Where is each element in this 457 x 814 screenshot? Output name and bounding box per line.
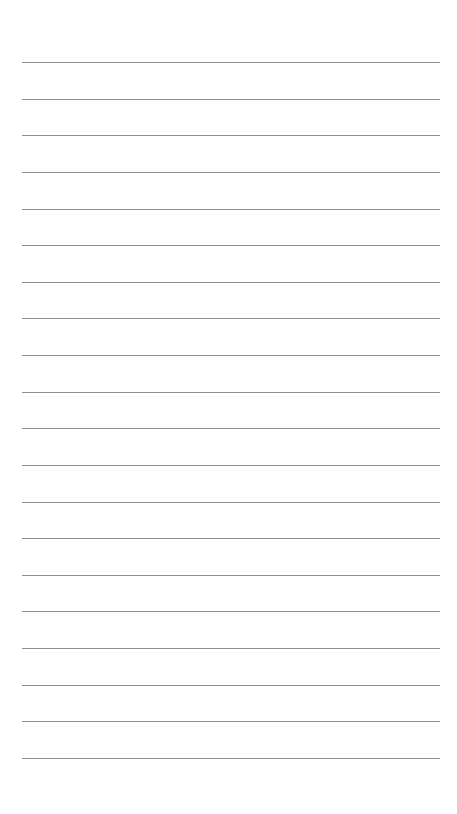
- ruled-line: [22, 209, 440, 210]
- ruled-line: [22, 135, 440, 136]
- ruled-line: [22, 62, 440, 63]
- ruled-line: [22, 245, 440, 246]
- ruled-line: [22, 575, 440, 576]
- ruled-line: [22, 758, 440, 759]
- ruled-line: [22, 721, 440, 722]
- ruled-line: [22, 685, 440, 686]
- ruled-line: [22, 538, 440, 539]
- ruled-line: [22, 392, 440, 393]
- ruled-line: [22, 99, 440, 100]
- ruled-line: [22, 611, 440, 612]
- lined-paper-page: [0, 0, 457, 814]
- ruled-line: [22, 282, 440, 283]
- ruled-line: [22, 318, 440, 319]
- ruled-line: [22, 465, 440, 466]
- ruled-line: [22, 648, 440, 649]
- ruled-line: [22, 172, 440, 173]
- ruled-line: [22, 428, 440, 429]
- ruled-line: [22, 502, 440, 503]
- ruled-line: [22, 355, 440, 356]
